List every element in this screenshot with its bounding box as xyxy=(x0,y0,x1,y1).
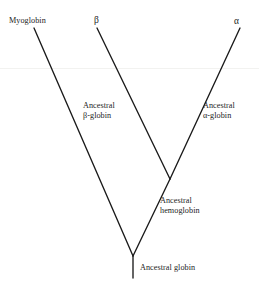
tip-label-alpha: α xyxy=(234,16,239,26)
node-label-ancestral-beta-globin: Ancestral β-globin xyxy=(83,101,115,121)
phylogenetic-tree-figure: Myoglobin β α Ancestral β-globin Ancestr… xyxy=(0,0,259,290)
node-label-line-1: Ancestral xyxy=(83,101,115,111)
node-label-line-2: β-globin xyxy=(83,111,115,121)
branch-ancestral-hemoglobin xyxy=(133,179,170,256)
tree-branches-canvas xyxy=(0,0,259,290)
node-label-line-2: hemoglobin xyxy=(160,206,200,216)
branch-myoglobin xyxy=(34,28,133,256)
node-label-line-1: Ancestral xyxy=(203,101,235,111)
node-label-ancestral-alpha-globin: Ancestral α-globin xyxy=(203,101,235,121)
node-label-line-1: Ancestral globin xyxy=(140,263,195,273)
node-label-ancestral-hemoglobin: Ancestral hemoglobin xyxy=(160,196,200,216)
node-label-line-1: Ancestral xyxy=(160,196,200,206)
tip-label-myoglobin: Myoglobin xyxy=(9,16,46,26)
tip-label-beta: β xyxy=(94,15,99,25)
node-label-line-2: α-globin xyxy=(203,111,235,121)
node-label-ancestral-globin: Ancestral globin xyxy=(140,263,195,273)
